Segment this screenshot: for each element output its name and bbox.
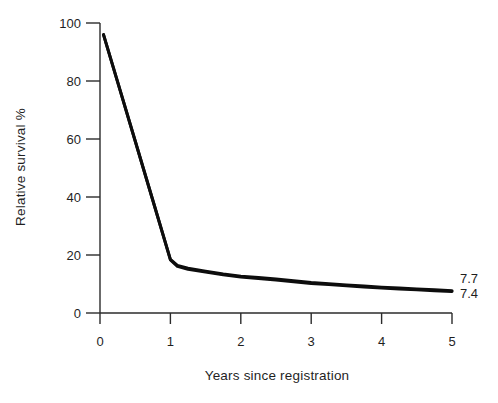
x-tick-label: 0 [96, 334, 103, 349]
curves-layer [104, 35, 453, 292]
y-tick-label: 40 [67, 190, 81, 205]
x-tick-label: 5 [448, 334, 455, 349]
x-tick-label: 1 [167, 334, 174, 349]
y-tick-label: 100 [59, 16, 81, 31]
chart-canvas: 0204060801000123457.77.4 Relative surviv… [0, 0, 498, 403]
labels-layer: 0204060801000123457.77.4 [59, 16, 478, 350]
relative-survival-figure: 0204060801000123457.77.4 Relative surviv… [0, 0, 498, 403]
survival-curve [104, 35, 453, 291]
x-tick-label: 2 [237, 334, 244, 349]
y-axis-title: Relative survival % [13, 108, 28, 226]
x-axis-title: Years since registration [205, 368, 350, 383]
y-tick-label: 80 [67, 74, 81, 89]
y-tick-label: 60 [67, 132, 81, 147]
curve-end-value-label: 7.7 [460, 271, 478, 286]
y-tick-label: 20 [67, 248, 81, 263]
x-tick-label: 3 [308, 334, 315, 349]
curve-end-value-label: 7.4 [460, 286, 478, 301]
y-tick-label: 0 [74, 306, 81, 321]
survival-curve [104, 35, 453, 292]
x-tick-label: 4 [378, 334, 385, 349]
